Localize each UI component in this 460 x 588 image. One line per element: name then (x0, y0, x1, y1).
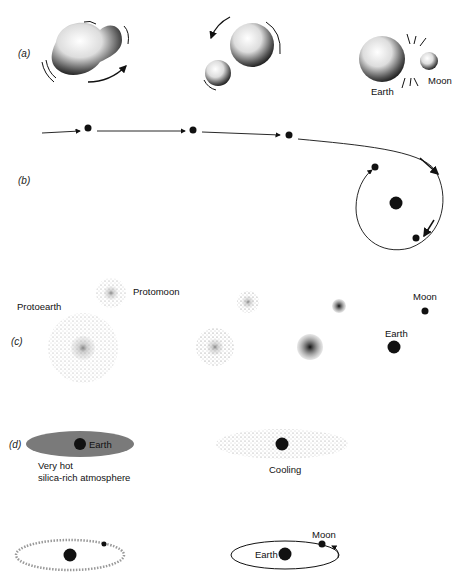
label-moon-a: Moon (428, 75, 452, 86)
panel-d: (d) Earth Very hot silica-rich atmospher… (9, 429, 348, 570)
label-earth-d: Earth (89, 439, 112, 450)
earth-dot (390, 197, 403, 210)
panel-a: (a) Earth Moon (18, 17, 452, 97)
moon-sphere (420, 52, 438, 70)
fission-body-large (230, 23, 274, 67)
moon-dot-d (319, 541, 326, 548)
earth-cloud-stage3 (297, 334, 323, 360)
label-cooling: Cooling (269, 464, 301, 475)
label-earth-d4: Earth (255, 549, 278, 560)
panel-b: (b) (18, 125, 443, 250)
label-moon-d4: Moon (312, 529, 336, 540)
fission-body-small (205, 60, 231, 86)
panel-c: (c) Protoearth Protomoon Moon Earth (11, 278, 437, 383)
moon-origin-diagram: (a) Earth Moon (b) (0, 0, 460, 588)
panel-label-b: (b) (18, 175, 30, 186)
earth-dot-d3 (64, 549, 77, 562)
fissioning-body (52, 23, 122, 75)
panel-label-a: (a) (18, 48, 30, 59)
moon-position (372, 164, 379, 171)
moon-cloud-stage3 (332, 299, 346, 313)
label-moon-c: Moon (413, 291, 437, 302)
panel-label-d: (d) (9, 439, 21, 450)
label-silica-atmosphere: silica-rich atmosphere (38, 472, 130, 483)
moon-dot-c (422, 308, 429, 315)
moon-position (85, 125, 92, 132)
panel-label-c: (c) (11, 336, 23, 347)
moonlet-dot (102, 542, 107, 547)
earth-dot-d1 (74, 438, 86, 450)
label-protoearth: Protoearth (17, 301, 61, 312)
earth-dot-c (388, 341, 401, 354)
label-very-hot: Very hot (38, 460, 73, 471)
earth-dot-d2 (276, 438, 289, 451)
moon-position (413, 235, 420, 242)
moon-position (190, 127, 197, 134)
earth-sphere (359, 36, 405, 82)
label-protomoon: Protomoon (133, 286, 179, 297)
label-earth-c: Earth (385, 328, 408, 339)
moon-position (286, 132, 293, 139)
earth-dot-d4 (279, 548, 292, 561)
label-earth-a: Earth (371, 86, 394, 97)
